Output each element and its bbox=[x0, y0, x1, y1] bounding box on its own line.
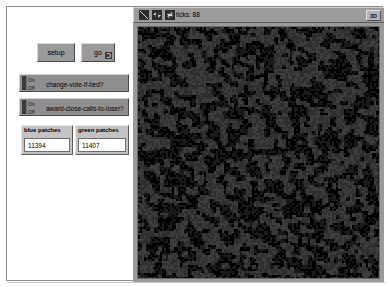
switch-toggle-handle[interactable] bbox=[22, 100, 27, 114]
world-canvas-container[interactable] bbox=[137, 26, 380, 279]
switch-label: award-close-calls-to-loser? bbox=[46, 99, 126, 117]
horizontal-arrows-icon[interactable] bbox=[152, 10, 162, 20]
monitor-green-patches[interactable]: green patches 11407 bbox=[75, 125, 129, 155]
switch-off-label: Off bbox=[28, 84, 42, 92]
forever-loop-icon bbox=[105, 52, 112, 59]
switch-toggle-handle[interactable] bbox=[22, 76, 27, 90]
go-button[interactable]: go bbox=[81, 43, 115, 62]
window-bottom-shadow bbox=[7, 282, 385, 283]
setup-button[interactable]: setup bbox=[37, 43, 75, 62]
ticks-counter: ticks: 88 bbox=[176, 11, 200, 18]
control-panel: setup go On Off change-vote-if-tied? On … bbox=[7, 7, 133, 280]
world-canvas[interactable] bbox=[138, 27, 379, 278]
switch-off-label: Off bbox=[28, 108, 42, 116]
resize-view-icon[interactable] bbox=[139, 10, 149, 20]
switch-award-close-calls-to-loser[interactable]: On Off award-close-calls-to-loser? bbox=[19, 98, 129, 116]
go-button-label: go bbox=[94, 49, 102, 56]
switch-on-label: On bbox=[28, 76, 42, 84]
setup-button-label: setup bbox=[47, 49, 64, 56]
monitor-blue-patches[interactable]: blue patches 11394 bbox=[21, 125, 73, 155]
vertical-arrows-icon[interactable] bbox=[165, 10, 175, 20]
three-d-view-button[interactable]: 3D bbox=[366, 10, 381, 21]
monitor-title: green patches bbox=[78, 127, 126, 137]
switch-state-labels: On Off bbox=[28, 99, 42, 117]
view-toolbar-icons bbox=[139, 10, 175, 20]
netlogo-model-window: setup go On Off change-vote-if-tied? On … bbox=[0, 0, 389, 287]
monitor-value: 11394 bbox=[24, 138, 70, 152]
view-toolbar: ticks: 88 3D bbox=[133, 7, 384, 23]
window-frame: setup go On Off change-vote-if-tied? On … bbox=[6, 6, 383, 281]
switch-state-labels: On Off bbox=[28, 75, 42, 93]
switch-change-vote-if-tied[interactable]: On Off change-vote-if-tied? bbox=[19, 74, 129, 92]
monitor-value: 11407 bbox=[78, 138, 126, 152]
switch-label: change-vote-if-tied? bbox=[46, 75, 126, 93]
switch-on-label: On bbox=[28, 100, 42, 108]
monitor-title: blue patches bbox=[24, 127, 70, 137]
world-view-panel: ticks: 88 3D bbox=[133, 7, 384, 282]
